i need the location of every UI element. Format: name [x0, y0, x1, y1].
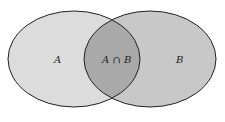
set-a-label: A — [53, 54, 61, 65]
intersection-label: A ∩ B — [101, 54, 131, 65]
set-b-label: B — [175, 54, 183, 65]
venn-diagram: A A ∩ B B — [0, 0, 225, 122]
